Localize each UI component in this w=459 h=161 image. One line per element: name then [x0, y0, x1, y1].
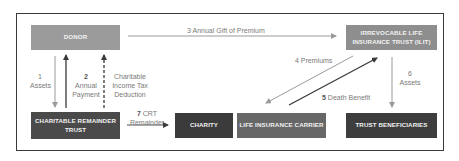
edge-num-7: 7 [137, 110, 141, 117]
edge-text-1: Assets [30, 81, 50, 90]
node-crt-label-1: CHARITABLE REMAINDER [35, 117, 116, 126]
node-donor: DONOR [31, 25, 120, 50]
node-beneficiaries: TRUST BENEFICIARIES [346, 113, 437, 138]
edge-text-5: Death Benefit [328, 94, 370, 101]
node-ilit-label-1: IRREVOCABLE LIFE [361, 29, 423, 38]
edge-num-4: 4 [295, 57, 299, 64]
edge-text-2b: Payment [70, 90, 102, 99]
edge-text-tax-a: Charitable [110, 72, 150, 81]
edge-num-6: 6 [397, 69, 423, 78]
node-ilit: IRREVOCABLE LIFE INSURANCE TRUST (ILIT) [346, 25, 437, 50]
node-carrier-label: LIFE INSURANCE CARRIER [239, 121, 323, 130]
edge-label-crt-remainder: 7 CRT Remainder [127, 109, 167, 127]
node-crt: CHARITABLE REMAINDER TRUST [31, 112, 120, 139]
edge-label-death-benefit: 5 Death Benefit [322, 93, 370, 102]
edge-text-6: Assets [397, 78, 423, 87]
node-charity: CHARITY [175, 113, 233, 138]
node-beneficiaries-label: TRUST BENEFICIARIES [355, 121, 427, 130]
edge-text-3: Annual Gift of Premium [192, 27, 264, 34]
edge-label-annual-payment: 2 Annual Payment [70, 72, 102, 99]
edge-label-assets-1: 1 Assets [30, 72, 50, 90]
node-carrier: LIFE INSURANCE CARRIER [237, 113, 326, 138]
edge-text-2a: Annual [70, 81, 102, 90]
node-charity-label: CHARITY [190, 121, 218, 130]
edge-label-tax-deduction: Charitable Income Tax Deduction [110, 72, 150, 99]
edge-text-tax-c: Deduction [110, 90, 150, 99]
edge-label-annual-gift: 3 Annual Gift of Premium [187, 26, 265, 35]
edge-num-1: 1 [30, 72, 50, 81]
node-crt-label-2: TRUST [65, 126, 86, 135]
edge-num-3: 3 [187, 27, 191, 34]
edge-num-5: 5 [322, 94, 326, 101]
edge-text-tax-b: Income Tax [110, 81, 150, 90]
edge-label-assets-6: 6 Assets [397, 69, 423, 87]
edge-text-4: Premiums [301, 57, 333, 64]
edge-num-2: 2 [70, 72, 102, 81]
node-ilit-label-2: INSURANCE TRUST (ILIT) [352, 38, 430, 47]
node-donor-label: DONOR [64, 33, 88, 42]
edge-label-premiums: 4 Premiums [295, 56, 332, 65]
edge-text-7a: CRT [143, 110, 157, 117]
edge-text-7b: Remainder [127, 118, 167, 127]
